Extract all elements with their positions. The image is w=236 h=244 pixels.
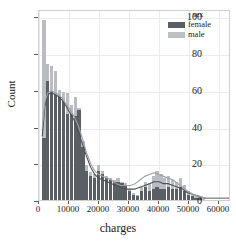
y-tick-mark [34,17,38,18]
legend-item-male[interactable]: male [168,30,230,39]
x-tick-mark [128,201,129,204]
legend-label-male: male [188,30,205,39]
x-tick-label: 60000 [198,204,236,214]
y-tick-mark [34,54,38,55]
kde-curve-female [42,93,229,198]
y-tick-mark [34,91,38,92]
y-tick-label: 60 [172,86,202,96]
legend: sex female male [168,10,230,40]
x-tick-mark [68,201,69,204]
y-tick-mark [34,164,38,165]
y-tick-label: 40 [172,123,202,133]
y-axis-label: Count [5,64,17,124]
x-axis-label: charges [0,221,236,236]
legend-label-female: female [188,20,211,29]
legend-swatch-male [168,32,185,38]
histogram-figure: 020406080100 Count 010000200003000040000… [0,0,236,244]
kde-curve-male [42,91,229,198]
x-tick-mark [218,201,219,204]
x-tick-mark [158,201,159,204]
legend-item-female[interactable]: female [168,20,230,29]
legend-swatch-female [168,22,185,28]
legend-title: sex [172,10,224,19]
y-tick-label: 80 [172,49,202,59]
x-tick-mark [188,201,189,204]
x-tick-mark [38,201,39,204]
y-tick-label: 20 [172,159,202,169]
x-tick-mark [98,201,99,204]
y-tick-mark [34,128,38,129]
